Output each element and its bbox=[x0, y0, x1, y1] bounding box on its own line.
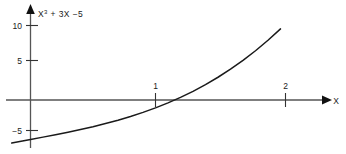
x-axis-arrow-icon bbox=[322, 96, 332, 105]
function-plot-figure: 10 5 −5 1 2 X X3 + 3X −5 bbox=[0, 0, 346, 154]
x-tick-label-2: 2 bbox=[283, 81, 288, 91]
y-axis-arrow-icon bbox=[26, 4, 35, 14]
curve-equation-label: X3 + 3X −5 bbox=[38, 9, 83, 19]
curve-label-rest: + 3X −5 bbox=[48, 9, 83, 19]
x-tick-label-1: 1 bbox=[153, 81, 158, 91]
function-curve bbox=[12, 29, 281, 143]
y-tick-label-10: 10 bbox=[13, 21, 23, 31]
y-tick-label-5: 5 bbox=[17, 56, 22, 66]
plot-canvas: 10 5 −5 1 2 X X3 + 3X −5 bbox=[0, 0, 346, 154]
y-tick-label-neg5: −5 bbox=[12, 126, 22, 136]
x-axis-label: X bbox=[333, 96, 339, 106]
